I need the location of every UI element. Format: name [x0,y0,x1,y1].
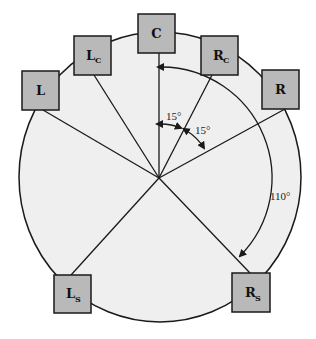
speaker-sub-label: S [255,293,261,303]
speaker-sub-label: S [75,294,81,304]
speaker-rc: R C [201,36,238,75]
speaker-c: C [138,14,175,53]
speaker-label: C [151,26,161,41]
speaker-sub-label: C [223,55,229,65]
speaker-label: L [86,48,95,63]
speaker-label: R [275,82,286,97]
angle-label-rc-r: 15° [195,124,210,136]
speaker-rs: R S [232,273,270,312]
speaker-r: R [262,70,299,109]
surround-speaker-layout-diagram: 15° 15° 110° C L C L R C R L S R S [0,0,316,339]
speaker-lc: L C [74,36,111,75]
speaker-sub-label: C [95,55,101,65]
speaker-l: L [22,71,59,110]
speaker-label: L [36,83,45,98]
speaker-label: L [66,286,75,301]
angle-label-c-rc: 15° [166,110,181,122]
angle-label-c-rs: 110° [270,190,291,202]
speaker-ls: L S [54,275,91,313]
